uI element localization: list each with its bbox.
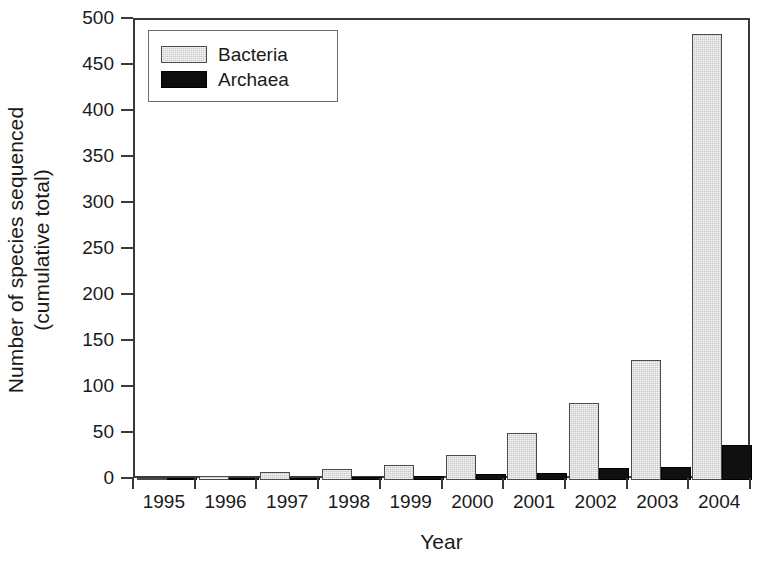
y-tick-mark — [121, 109, 133, 111]
bar-archaea-2004 — [722, 445, 752, 480]
y-tick-label: 350 — [58, 146, 114, 165]
x-tick-mark — [317, 478, 319, 489]
x-tick-mark — [441, 478, 443, 489]
x-tick-mark — [626, 478, 628, 489]
bar-archaea-1996 — [229, 478, 259, 480]
y-axis-title-line-1: Number of species sequenced — [3, 107, 29, 393]
y-tick-label: 150 — [58, 330, 114, 349]
x-axis-title: Year — [133, 530, 750, 554]
legend: Bacteria Archaea — [148, 30, 338, 102]
y-tick-label: 300 — [58, 192, 114, 211]
y-tick-mark — [121, 339, 133, 341]
bar-bacteria-2002 — [569, 403, 599, 480]
y-tick-label: 450 — [58, 54, 114, 73]
y-axis-title: Number of species sequenced (cumulative … — [0, 0, 58, 500]
x-tick-mark — [255, 478, 257, 489]
y-tick-label: 400 — [58, 100, 114, 119]
legend-item-bacteria: Bacteria — [161, 44, 288, 64]
bar-archaea-1995 — [167, 478, 197, 480]
bar-archaea-2000 — [476, 474, 506, 480]
x-tick-mark — [379, 478, 381, 489]
bar-archaea-1998 — [352, 477, 382, 480]
legend-item-archaea: Archaea — [161, 69, 289, 89]
y-tick-mark — [121, 63, 133, 65]
legend-label-archaea: Archaea — [218, 70, 289, 89]
x-tick-mark — [502, 478, 504, 489]
y-tick-mark — [121, 17, 133, 19]
bar-bacteria-1996 — [199, 476, 229, 480]
legend-label-bacteria: Bacteria — [218, 45, 288, 64]
x-tick-label: 2004 — [679, 491, 759, 513]
bar-bacteria-1998 — [322, 469, 352, 480]
bar-bacteria-2003 — [631, 360, 661, 480]
legend-swatch-bacteria-icon — [161, 46, 207, 63]
y-tick-mark — [121, 155, 133, 157]
y-axis-title-line-2: (cumulative total) — [29, 107, 55, 393]
y-tick-mark — [121, 385, 133, 387]
bar-bacteria-1999 — [384, 465, 414, 480]
bar-bacteria-1995 — [137, 478, 167, 480]
bar-bacteria-2004 — [692, 34, 722, 480]
bar-archaea-2001 — [537, 473, 567, 480]
bar-bacteria-2000 — [446, 455, 476, 480]
y-tick-mark — [121, 431, 133, 433]
x-tick-mark — [749, 478, 751, 489]
y-tick-label: 250 — [58, 238, 114, 257]
x-tick-mark — [564, 478, 566, 489]
y-tick-label: 50 — [58, 422, 114, 441]
legend-swatch-archaea-icon — [161, 71, 207, 88]
bar-bacteria-1997 — [260, 472, 290, 480]
y-tick-mark — [121, 247, 133, 249]
y-tick-label: 500 — [58, 8, 114, 27]
bar-chart-figure: Number of species sequenced (cumulative … — [0, 0, 776, 574]
x-tick-mark — [687, 478, 689, 489]
y-tick-label: 0 — [58, 468, 114, 487]
bar-bacteria-2001 — [507, 433, 537, 480]
bar-archaea-2003 — [661, 467, 691, 480]
x-tick-mark — [132, 478, 134, 489]
y-tick-label: 200 — [58, 284, 114, 303]
y-tick-mark — [121, 293, 133, 295]
bar-archaea-1999 — [414, 476, 444, 480]
x-tick-mark — [194, 478, 196, 489]
bar-archaea-1997 — [290, 478, 320, 480]
y-tick-label: 100 — [58, 376, 114, 395]
bar-archaea-2002 — [599, 468, 629, 480]
y-tick-mark — [121, 201, 133, 203]
